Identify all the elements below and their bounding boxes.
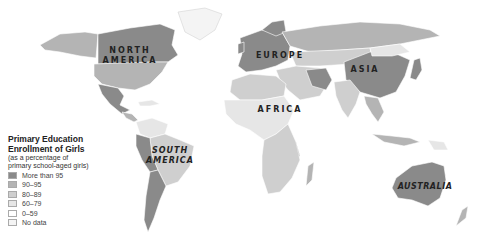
legend-subtitle-2: primary school-aged girls) bbox=[8, 162, 128, 170]
label-australia: AUSTRALIA bbox=[395, 182, 455, 192]
region-alaska bbox=[40, 32, 98, 58]
swatch-icon bbox=[8, 200, 17, 207]
label-asia: ASIA bbox=[340, 65, 390, 75]
region-central-america bbox=[122, 112, 138, 122]
legend-label: No data bbox=[22, 219, 47, 226]
swatch-icon bbox=[8, 181, 17, 188]
label-north-america: NORTH AMERICA bbox=[100, 46, 160, 66]
legend-item: More than 95 bbox=[8, 171, 128, 180]
region-caribbean bbox=[138, 100, 160, 106]
label-south: SOUTH bbox=[140, 146, 200, 156]
legend: Primary Education Enrollment of Girls (a… bbox=[8, 135, 128, 227]
swatch-icon bbox=[8, 210, 17, 217]
region-argentina bbox=[144, 170, 166, 232]
legend-label: More than 95 bbox=[22, 172, 63, 179]
legend-label: 90–95 bbox=[22, 181, 41, 188]
legend-item: 0–59 bbox=[8, 209, 128, 218]
region-north-africa bbox=[230, 74, 286, 100]
label-america-s: AMERICA bbox=[140, 156, 200, 166]
legend-item: 80–89 bbox=[8, 190, 128, 199]
region-greenland bbox=[178, 8, 222, 40]
region-uk bbox=[238, 42, 244, 54]
swatch-icon bbox=[8, 172, 17, 179]
region-papua-new-guinea bbox=[428, 140, 448, 150]
region-new-zealand bbox=[456, 206, 468, 226]
label-europe: EUROPE bbox=[250, 51, 310, 61]
legend-label: 0–59 bbox=[22, 210, 38, 217]
region-russia bbox=[282, 22, 440, 52]
region-southeast-asia bbox=[364, 96, 384, 122]
label-africa: AFRICA bbox=[250, 105, 310, 115]
swatch-icon bbox=[8, 219, 17, 226]
legend-item: 60–79 bbox=[8, 199, 128, 208]
label-america: AMERICA bbox=[100, 56, 160, 66]
legend-subtitle-1: (as a percentage of bbox=[8, 154, 128, 162]
label-north: NORTH bbox=[100, 46, 160, 56]
swatch-icon bbox=[8, 191, 17, 198]
region-madagascar bbox=[306, 162, 314, 186]
region-japan bbox=[410, 58, 422, 80]
region-indonesia bbox=[372, 134, 420, 146]
legend-label: 80–89 bbox=[22, 191, 41, 198]
legend-item: 90–95 bbox=[8, 180, 128, 189]
legend-title-2: Enrollment of Girls bbox=[8, 145, 128, 155]
legend-item: No data bbox=[8, 218, 128, 227]
legend-label: 60–79 bbox=[22, 200, 41, 207]
label-south-america: SOUTH AMERICA bbox=[140, 146, 200, 166]
